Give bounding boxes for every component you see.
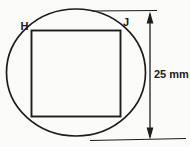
dimension-label: 25 mm [154, 68, 189, 80]
extension-line-bottom [90, 139, 186, 141]
inscribed-square [32, 31, 121, 117]
vertex-label-h: H [21, 20, 29, 32]
arrow-up-icon [147, 12, 154, 24]
extension-line-top [92, 11, 157, 12]
diagram-canvas: H J 25 mm [0, 0, 190, 147]
geometry-diagram: H J 25 mm [0, 0, 190, 147]
vertex-label-j: J [123, 16, 129, 28]
arrow-down-icon [147, 128, 154, 140]
